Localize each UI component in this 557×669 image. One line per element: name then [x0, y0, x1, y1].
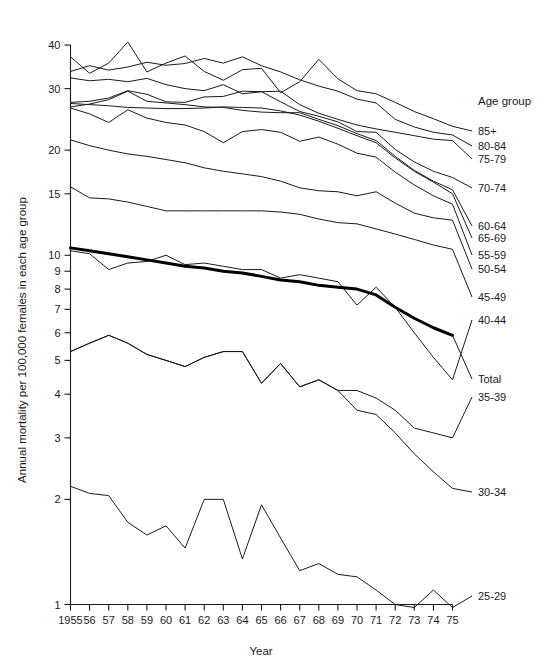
y-tick-label: 2: [54, 493, 60, 505]
x-tick-label: 1955: [58, 614, 82, 626]
series-label-30-34: 30-34: [478, 486, 506, 498]
y-tick-label: 1: [54, 599, 60, 611]
y-tick-label: 20: [48, 144, 60, 156]
y-tick-label: 8: [54, 283, 60, 295]
x-tick-label: 69: [332, 614, 344, 626]
series-label-35-39: 35-39: [478, 391, 506, 403]
legend-title: Age group: [478, 95, 531, 107]
x-tick-label: 67: [294, 614, 306, 626]
x-tick-label: 65: [255, 614, 267, 626]
x-tick-label: 58: [122, 614, 134, 626]
y-tick-label: 4: [54, 388, 60, 400]
series-label-45-49: 45-49: [478, 291, 506, 303]
y-tick-label: 7: [54, 303, 60, 315]
x-tick-label: 64: [236, 614, 248, 626]
y-tick-label: 5: [54, 354, 60, 366]
series-label-65-69: 65-69: [478, 232, 506, 244]
series-label-40-44: 40-44: [478, 314, 506, 326]
x-tick-label: 60: [160, 614, 172, 626]
series-label-total: Total: [478, 373, 501, 385]
x-tick-label: 74: [427, 614, 439, 626]
mortality-line-chart: 4030201510987654321 19555657585960616263…: [0, 0, 557, 669]
x-tick-label: 68: [313, 614, 325, 626]
series-label-55-59: 55-59: [478, 249, 506, 261]
x-axis-title: Year: [249, 645, 272, 657]
series-label-60-64: 60-64: [478, 220, 506, 232]
x-tick-label: 57: [103, 614, 115, 626]
y-tick-label: 9: [54, 265, 60, 277]
x-tick-label: 62: [198, 614, 210, 626]
series-label-85-: 85+: [478, 125, 497, 137]
x-tick-label: 70: [351, 614, 363, 626]
y-tick-label: 30: [48, 83, 60, 95]
series-label-25-29: 25-29: [478, 590, 506, 602]
x-tick-label: 73: [408, 614, 420, 626]
series-label-70-74: 70-74: [478, 182, 506, 194]
y-tick-label: 10: [48, 249, 60, 261]
x-tick-label: 66: [274, 614, 286, 626]
y-tick-label: 6: [54, 327, 60, 339]
y-axis-title: Annual mortality per 100,000 females in …: [16, 197, 28, 483]
x-tick-label: 72: [389, 614, 401, 626]
y-tick-label: 40: [48, 39, 60, 51]
chart-figure: 4030201510987654321 19555657585960616263…: [0, 0, 557, 669]
x-tick-label: 59: [141, 614, 153, 626]
x-tick-label: 75: [446, 614, 458, 626]
y-tick-label: 3: [54, 432, 60, 444]
x-tick-label: 61: [179, 614, 191, 626]
series-label-80-84: 80-84: [478, 140, 506, 152]
x-tick-label: 56: [83, 614, 95, 626]
x-tick-label: 71: [370, 614, 382, 626]
series-label-75-79: 75-79: [478, 153, 506, 165]
y-tick-label: 15: [48, 188, 60, 200]
x-tick-label: 63: [217, 614, 229, 626]
series-label-50-54: 50-54: [478, 263, 506, 275]
